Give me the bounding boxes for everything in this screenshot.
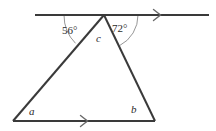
triangle-left-side — [13, 15, 104, 121]
angle-label-a: a — [29, 106, 35, 117]
angle-label-72: 72° — [112, 23, 127, 34]
geometry-figure: 56° 72° c a b — [0, 0, 216, 131]
angle-label-b: b — [131, 104, 137, 115]
angle-label-56: 56° — [62, 25, 77, 36]
angle-label-c: c — [96, 33, 101, 44]
